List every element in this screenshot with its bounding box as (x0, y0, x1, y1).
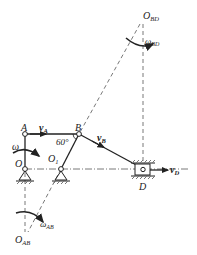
links (25, 134, 140, 169)
svg-text:ωAB: ωAB (40, 219, 54, 230)
ground-support-O1 (52, 171, 70, 184)
svg-text:60°: 60° (56, 137, 69, 147)
construction-lines (25, 24, 190, 232)
link-BD (79, 134, 140, 167)
svg-text:B: B (75, 122, 81, 133)
svg-text:O1: O1 (48, 153, 58, 165)
labels: OBD ωBD A vA B 60° vB ω O O1 D vD ωAB OA… (12, 10, 179, 246)
svg-text:OBD: OBD (143, 10, 159, 22)
svg-text:ω: ω (12, 141, 19, 152)
svg-text:vB: vB (97, 132, 106, 144)
svg-text:vA: vA (39, 122, 48, 134)
svg-text:A: A (20, 122, 28, 133)
diagram-svg: OBD ωBD A vA B 60° vB ω O O1 D vD ωAB OA… (0, 0, 197, 255)
svg-text:OAB: OAB (15, 234, 30, 246)
svg-text:vD: vD (170, 164, 179, 176)
linkage-diagram: OBD ωBD A vA B 60° vB ω O O1 D vD ωAB OA… (0, 0, 197, 255)
omega-arcs (13, 38, 153, 222)
svg-text:D: D (138, 181, 147, 192)
omega-arc-AB (16, 212, 43, 222)
svg-text:ωBD: ωBD (145, 36, 160, 47)
svg-text:O: O (15, 158, 22, 169)
